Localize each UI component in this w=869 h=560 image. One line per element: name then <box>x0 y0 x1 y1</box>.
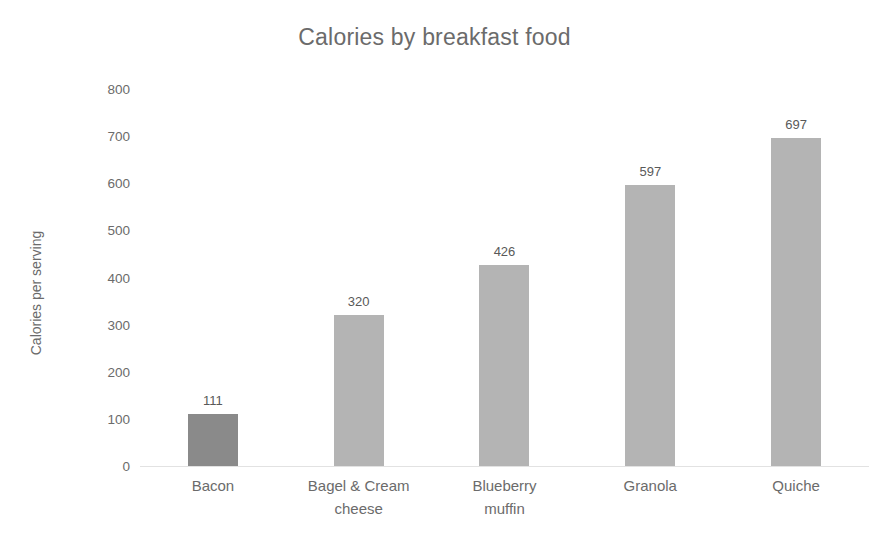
x-axis-category-labels: BaconBagel & CreamcheeseBlueberrymuffinG… <box>140 474 869 544</box>
x-axis-category-label: Bagel & Creamcheese <box>286 474 432 520</box>
bar[interactable] <box>479 265 529 466</box>
bar-group: 597 <box>577 89 723 466</box>
bar-value-label: 697 <box>785 117 807 132</box>
x-axis-category-label-line: Granola <box>577 474 723 497</box>
y-axis-title: Calories per serving <box>28 183 44 403</box>
y-axis-tick-label: 300 <box>86 317 130 332</box>
x-axis-category-label: Blueberrymuffin <box>432 474 578 520</box>
bar-value-label: 426 <box>494 244 516 259</box>
bar-value-label: 320 <box>348 294 370 309</box>
x-axis-category-label-line: Quiche <box>723 474 869 497</box>
x-axis-category-label-line: Bagel & Cream <box>286 474 432 497</box>
x-axis-category-label: Quiche <box>723 474 869 497</box>
bar-group: 111 <box>140 89 286 466</box>
bar-group: 697 <box>723 89 869 466</box>
x-axis-category-label: Bacon <box>140 474 286 497</box>
y-axis-tick-label: 0 <box>86 459 130 474</box>
x-axis-category-label: Granola <box>577 474 723 497</box>
plot-area: 111320426597697 <box>140 89 869 466</box>
chart-title: Calories by breakfast food <box>0 24 869 51</box>
y-axis-tick-label: 600 <box>86 176 130 191</box>
x-axis-line <box>140 466 869 467</box>
bar-chart-figure: Calories by breakfast food Calories per … <box>0 0 869 560</box>
y-axis-tick-label: 700 <box>86 129 130 144</box>
bar-value-label: 111 <box>203 393 223 408</box>
y-axis-tick-label: 800 <box>86 82 130 97</box>
y-axis-tick-label: 100 <box>86 411 130 426</box>
x-axis-category-label-line: cheese <box>286 497 432 520</box>
x-axis-category-label-line: Bacon <box>140 474 286 497</box>
bar[interactable] <box>188 414 238 466</box>
bar[interactable] <box>625 185 675 466</box>
x-axis-category-label-line: Blueberry <box>432 474 578 497</box>
y-axis-tick-label: 500 <box>86 223 130 238</box>
bar[interactable] <box>334 315 384 466</box>
bar-group: 426 <box>432 89 578 466</box>
x-axis-category-label-line: muffin <box>432 497 578 520</box>
y-axis-tick-labels: 8007006005004003002001000 <box>86 89 130 466</box>
bar[interactable] <box>771 138 821 466</box>
y-axis-tick-label: 200 <box>86 364 130 379</box>
bar-group: 320 <box>286 89 432 466</box>
bar-value-label: 597 <box>639 164 661 179</box>
y-axis-tick-label: 400 <box>86 270 130 285</box>
